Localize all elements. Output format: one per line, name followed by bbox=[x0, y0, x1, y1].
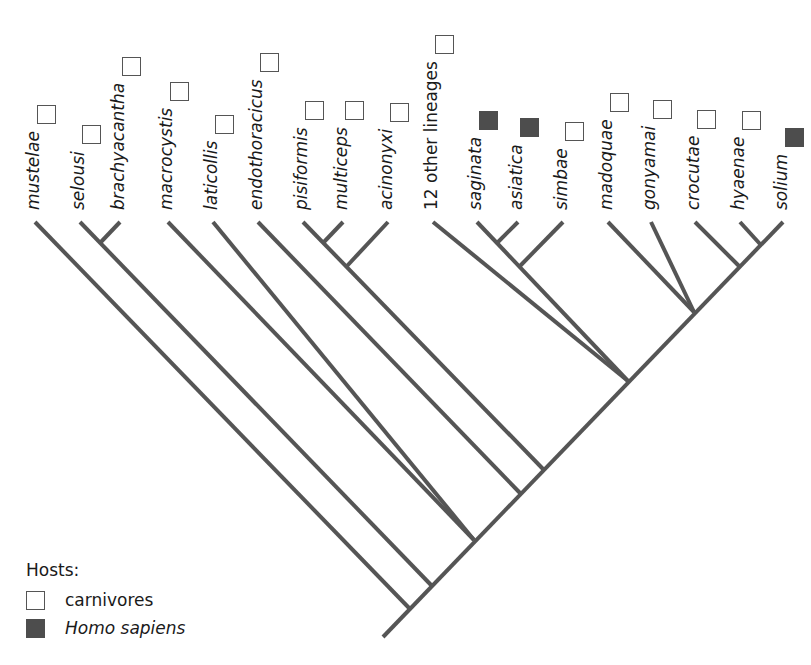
tree-branch bbox=[477, 222, 628, 381]
carnivore-host-box-icon bbox=[653, 100, 672, 119]
leaf-label: mustelae bbox=[23, 131, 43, 210]
carnivore-host-box-icon bbox=[122, 57, 141, 76]
leaf-label: brachyacantha bbox=[108, 83, 128, 210]
leaf-label: selousi bbox=[68, 151, 88, 210]
human-host-box-icon bbox=[520, 118, 539, 137]
leaf-label: madoquae bbox=[596, 119, 616, 210]
tree-branch bbox=[323, 222, 343, 243]
tree-branch bbox=[695, 222, 739, 266]
carnivore-host-box-icon bbox=[435, 35, 454, 54]
tree-branch bbox=[497, 222, 518, 243]
leaf-label: hyaenae bbox=[728, 137, 748, 210]
carnivore-host-box-icon bbox=[742, 111, 761, 130]
leaf-label: simbae bbox=[551, 148, 571, 210]
leaf-label: solium bbox=[771, 154, 791, 210]
tree-branch bbox=[740, 222, 760, 244]
carnivore-host-swatch-icon bbox=[26, 591, 45, 610]
legend-label-carnivores: carnivores bbox=[65, 590, 153, 610]
leaf-label: saginata bbox=[465, 137, 485, 210]
leaf-label: gonyamai bbox=[639, 126, 659, 210]
human-host-box-icon bbox=[785, 128, 804, 147]
carnivore-host-box-icon bbox=[37, 105, 56, 124]
carnivore-host-box-icon bbox=[697, 110, 716, 129]
carnivore-host-box-icon bbox=[82, 125, 101, 144]
leaf-label: acinonyxi bbox=[376, 129, 396, 210]
carnivore-host-box-icon bbox=[610, 93, 629, 112]
carnivore-host-box-icon bbox=[260, 53, 279, 72]
tree-branch bbox=[651, 222, 694, 312]
carnivore-host-box-icon bbox=[170, 82, 189, 101]
legend-item-carnivores: carnivores bbox=[26, 586, 185, 614]
human-host-swatch-icon bbox=[26, 619, 45, 638]
carnivore-host-box-icon bbox=[215, 115, 234, 134]
carnivore-host-box-icon bbox=[565, 122, 584, 141]
leaf-label: pisiformis bbox=[291, 127, 311, 210]
leaf-label: crocutae bbox=[683, 136, 703, 210]
carnivore-host-box-icon bbox=[390, 103, 409, 122]
carnivore-host-box-icon bbox=[345, 101, 364, 120]
legend-item-homo-sapiens: Homo sapiens bbox=[26, 614, 185, 642]
leaf-label: macrocystis bbox=[156, 108, 176, 210]
tree-branch bbox=[347, 222, 388, 266]
human-host-box-icon bbox=[479, 111, 498, 130]
leaf-label: multiceps bbox=[331, 127, 351, 210]
tree-branch bbox=[520, 222, 563, 266]
legend-title: Hosts: bbox=[26, 560, 185, 580]
leaf-label: 12 other lineages bbox=[421, 61, 441, 210]
leaf-label: laticollis bbox=[201, 141, 221, 210]
tree-branch bbox=[433, 222, 628, 381]
carnivore-host-box-icon bbox=[305, 101, 324, 120]
tree-branch bbox=[383, 222, 783, 637]
legend: Hosts: carnivores Homo sapiens bbox=[26, 560, 185, 642]
tree-branch bbox=[303, 222, 543, 469]
tree-branch bbox=[168, 222, 474, 540]
leaf-label: asiatica bbox=[506, 144, 526, 210]
tree-branch bbox=[100, 222, 120, 243]
legend-label-homo-sapiens: Homo sapiens bbox=[65, 618, 185, 638]
tree-branch bbox=[608, 222, 694, 312]
leaf-label: endothoracicus bbox=[246, 79, 266, 210]
